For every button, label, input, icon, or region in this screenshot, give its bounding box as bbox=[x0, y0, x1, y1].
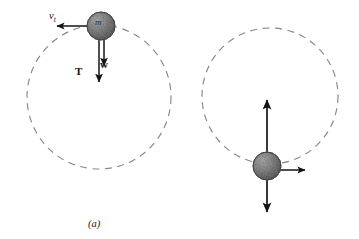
physics-figure: vt m T w (a) T m vb w (b) bbox=[0, 0, 359, 239]
tension-label-a: T bbox=[75, 66, 83, 77]
panel-a: vt m T w (a) bbox=[0, 0, 179, 239]
velocity-top-label: vt bbox=[49, 11, 56, 23]
caption-a: (a) bbox=[88, 219, 100, 230]
weight-label-a: w bbox=[100, 59, 108, 70]
panel-b: T m vb w (b) bbox=[180, 0, 359, 239]
mass-label-a: m bbox=[95, 18, 102, 27]
